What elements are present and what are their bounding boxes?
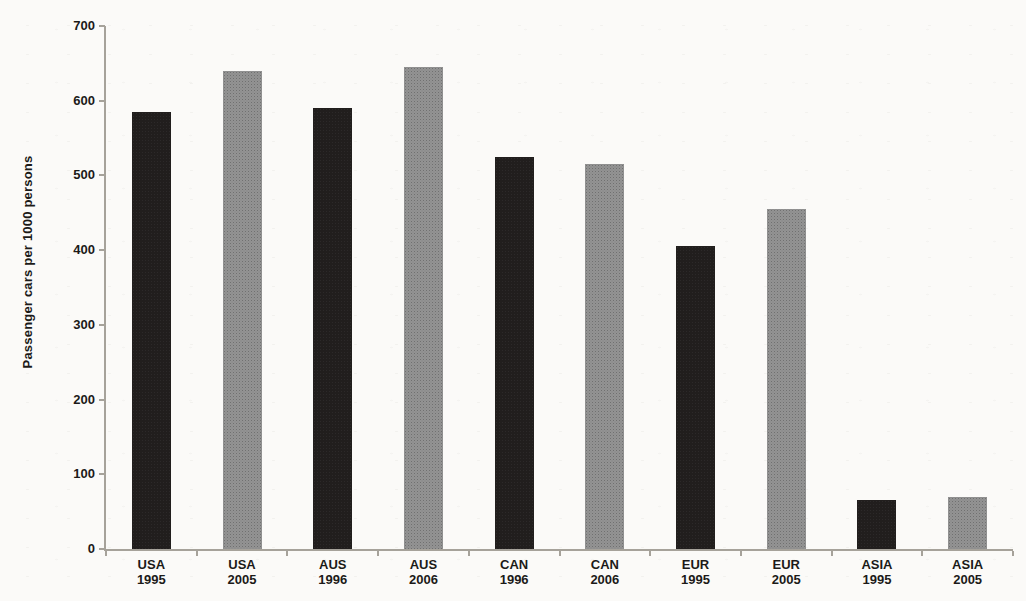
y-tick-mark bbox=[99, 174, 105, 176]
x-category-label-aus-1996: AUS1996 bbox=[287, 557, 378, 587]
x-tick-mark bbox=[559, 551, 561, 556]
y-tick-mark bbox=[99, 473, 105, 475]
x-tick-mark bbox=[196, 551, 198, 556]
x-category-label-usa-1995: USA1995 bbox=[106, 557, 197, 587]
bar-eur-2005 bbox=[767, 209, 806, 549]
y-tick-label-0: 0 bbox=[55, 541, 95, 557]
y-tick-mark bbox=[99, 25, 105, 27]
y-tick-label-500: 500 bbox=[55, 167, 95, 183]
bar-usa-1995 bbox=[132, 112, 171, 549]
y-tick-label-600: 600 bbox=[55, 93, 95, 109]
y-tick-label-100: 100 bbox=[55, 466, 95, 482]
bar-eur-1995 bbox=[676, 246, 715, 549]
x-tick-mark bbox=[377, 551, 379, 556]
bars-group bbox=[106, 26, 1013, 549]
y-tick-label-200: 200 bbox=[55, 392, 95, 408]
y-tick-mark bbox=[99, 249, 105, 251]
x-category-label-can-2006: CAN2006 bbox=[560, 557, 651, 587]
x-category-label-asia-2005: ASIA2005 bbox=[922, 557, 1013, 587]
scanned-page: Passenger cars per 1000 persons 01002003… bbox=[0, 0, 1026, 601]
x-tick-mark bbox=[105, 551, 107, 556]
x-tick-mark bbox=[1012, 551, 1014, 556]
x-category-label-eur-1995: EUR1995 bbox=[650, 557, 741, 587]
bar-asia-2005 bbox=[948, 497, 987, 549]
bar-usa-2005 bbox=[223, 71, 262, 549]
x-tick-mark bbox=[740, 551, 742, 556]
x-tick-mark bbox=[831, 551, 833, 556]
x-category-label-can-1996: CAN1996 bbox=[469, 557, 560, 587]
x-category-label-eur-2005: EUR2005 bbox=[741, 557, 832, 587]
x-tick-mark bbox=[649, 551, 651, 556]
y-tick-label-400: 400 bbox=[55, 242, 95, 258]
x-category-label-asia-1995: ASIA1995 bbox=[832, 557, 923, 587]
bar-aus-1996 bbox=[313, 108, 352, 549]
x-category-label-usa-2005: USA2005 bbox=[197, 557, 288, 587]
y-axis-title: Passenger cars per 1000 persons bbox=[20, 156, 35, 369]
x-tick-mark bbox=[286, 551, 288, 556]
bar-can-2006 bbox=[585, 164, 624, 549]
y-tick-label-700: 700 bbox=[55, 18, 95, 34]
x-tick-mark bbox=[468, 551, 470, 556]
y-tick-mark bbox=[99, 399, 105, 401]
y-tick-mark bbox=[99, 100, 105, 102]
bar-asia-1995 bbox=[857, 500, 896, 549]
bar-can-1996 bbox=[495, 157, 534, 549]
y-tick-mark bbox=[99, 324, 105, 326]
y-tick-mark bbox=[99, 548, 105, 550]
plot-area bbox=[104, 26, 1013, 551]
x-category-label-aus-2006: AUS2006 bbox=[378, 557, 469, 587]
y-tick-label-300: 300 bbox=[55, 317, 95, 333]
x-tick-mark bbox=[921, 551, 923, 556]
bar-aus-2006 bbox=[404, 67, 443, 549]
